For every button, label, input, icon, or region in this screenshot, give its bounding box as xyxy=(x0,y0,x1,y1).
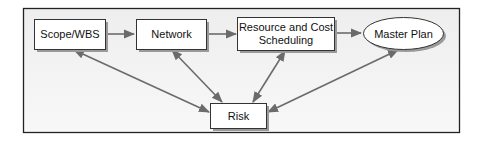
node-label: Network xyxy=(151,28,192,40)
node-label: Scope/WBS xyxy=(40,28,99,40)
node-risk: Risk xyxy=(211,104,270,132)
node-label-line-2: Scheduling xyxy=(259,34,313,46)
node-scope-wbs: Scope/WBS xyxy=(35,20,109,53)
node-label: Risk xyxy=(228,110,250,122)
node-label-line-1: Resource and Cost xyxy=(239,21,333,33)
diagram-canvas: Scope/WBS Network Resource and Cost Sche… xyxy=(0,0,479,143)
node-network: Network xyxy=(137,20,210,53)
node-resource-cost-scheduling: Resource and Cost Scheduling xyxy=(238,18,338,54)
node-label: Master Plan xyxy=(374,28,433,40)
